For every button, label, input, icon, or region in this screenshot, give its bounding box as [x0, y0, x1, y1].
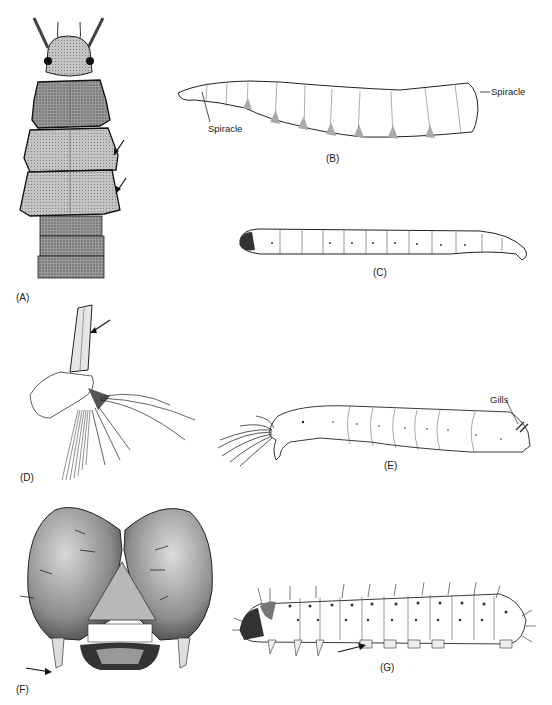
panel-g-illustration: (G) [220, 560, 552, 705]
spiracle-left-annotation: Spiracle [208, 123, 242, 134]
head-capsule-drawing [0, 490, 230, 705]
panel-b-label: (B) [326, 153, 339, 164]
panel-e-label: (E) [384, 460, 397, 471]
panel-f-label: (F) [16, 684, 29, 695]
panel-e-illustration: Gills (E) [210, 400, 552, 470]
panel-g-label: (G) [380, 662, 394, 673]
panel-c-illustration: (C) [220, 190, 552, 290]
siphon-fan-drawing [0, 300, 210, 480]
panel-c-label: (C) [373, 267, 387, 278]
panel-d-label: (D) [20, 472, 34, 483]
panel-b-illustration: Spiracle Spiracle (B) [150, 50, 552, 180]
gills-annotation: Gills [490, 394, 508, 405]
spiracle-right-annotation: Spiracle [491, 86, 525, 97]
panel-a-illustration [0, 0, 160, 300]
larva-dorsal-drawing [0, 0, 160, 300]
maggot-lateral-drawing [150, 50, 552, 180]
panel-d-illustration [0, 300, 210, 480]
aquatic-larva-drawing [210, 400, 552, 470]
panel-f-illustration [0, 490, 230, 705]
caterpillar-drawing [220, 560, 552, 705]
